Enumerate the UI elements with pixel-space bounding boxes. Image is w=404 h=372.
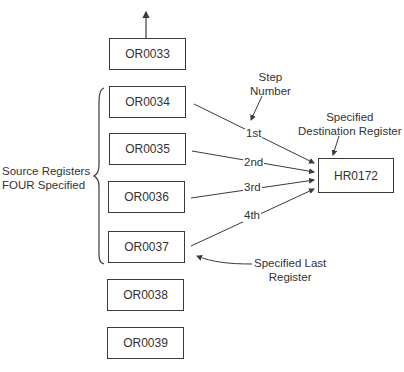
step-label-1st: 1st <box>245 127 262 140</box>
register-box-or0035: OR0035 <box>109 133 186 165</box>
register-box-or0034: OR0034 <box>109 86 186 118</box>
last-register-annotation-line2: Register <box>254 270 326 284</box>
source-brace <box>94 88 104 264</box>
destination-annotation-line1: Specified <box>298 110 402 124</box>
destination-pointer <box>333 136 339 155</box>
last-register-pointer <box>197 256 252 264</box>
step-label-3rd: 3rd <box>243 181 262 194</box>
register-box-or0033: OR0033 <box>109 38 186 70</box>
destination-annotation-line2: Destination Register <box>298 124 402 138</box>
step-annotation-line1: Step <box>250 70 291 84</box>
register-label: OR0034 <box>125 95 170 109</box>
register-label: OR0038 <box>123 288 168 302</box>
last-register-annotation-line1: Specified Last <box>254 256 326 270</box>
register-label: OR0035 <box>125 142 170 156</box>
step-label-4th: 4th <box>243 209 261 222</box>
register-box-or0038: OR0038 <box>107 279 184 311</box>
register-label: OR0037 <box>124 240 169 254</box>
step-label-2nd: 2nd <box>243 156 264 169</box>
register-box-or0037: OR0037 <box>108 231 185 263</box>
destination-annotation: Specified Destination Register <box>298 110 402 138</box>
last-register-annotation: Specified Last Register <box>254 256 326 284</box>
register-box-or0036: OR0036 <box>108 181 185 213</box>
step-number-annotation: Step Number <box>250 70 291 98</box>
source-registers-annotation: Source Registers FOUR Specified <box>2 164 90 192</box>
source-annotation-line2: FOUR Specified <box>2 178 90 192</box>
source-annotation-line1: Source Registers <box>2 164 90 178</box>
destination-register-box: HR0172 <box>318 158 394 193</box>
step-annotation-line2: Number <box>250 84 291 98</box>
register-label: OR0036 <box>124 190 169 204</box>
register-box-or0039: OR0039 <box>107 327 184 359</box>
register-label: OR0039 <box>123 336 168 350</box>
register-label: OR0033 <box>125 47 170 61</box>
destination-register-label: HR0172 <box>334 169 378 183</box>
step-number-pointer <box>251 96 262 120</box>
